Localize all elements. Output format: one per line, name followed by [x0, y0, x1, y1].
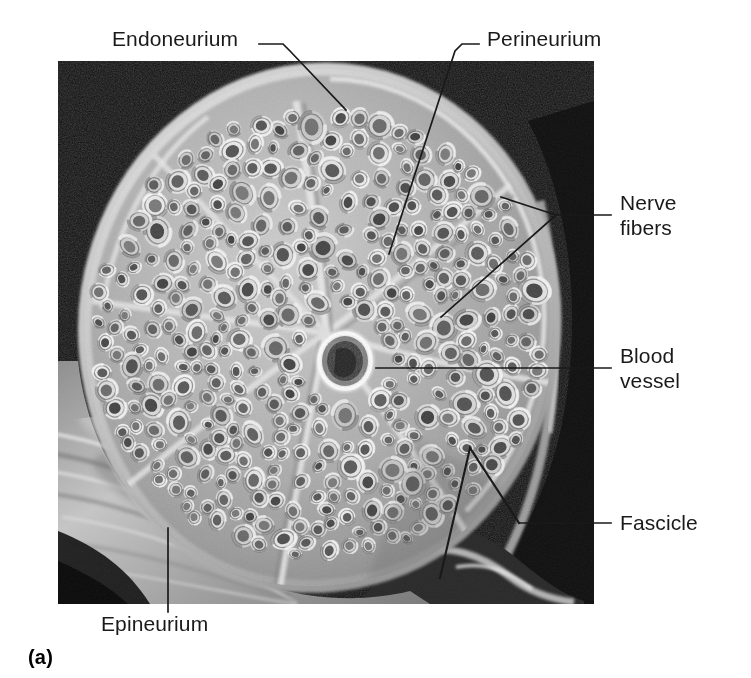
- label-epineurium: Epineurium: [101, 611, 208, 636]
- label-blood-vessel: Blood vessel: [620, 343, 680, 393]
- label-perineurium: Perineurium: [487, 26, 601, 51]
- label-fascicle: Fascicle: [620, 510, 698, 535]
- label-endoneurium: Endoneurium: [112, 26, 238, 51]
- nerve-cross-section-micrograph: [58, 61, 594, 604]
- panel-letter-a: (a): [28, 646, 53, 669]
- figure-root: Endoneurium Perineurium Nerve fibers Blo…: [0, 0, 751, 678]
- micrograph-image: [58, 61, 594, 604]
- label-nerve-fibers: Nerve fibers: [620, 190, 677, 240]
